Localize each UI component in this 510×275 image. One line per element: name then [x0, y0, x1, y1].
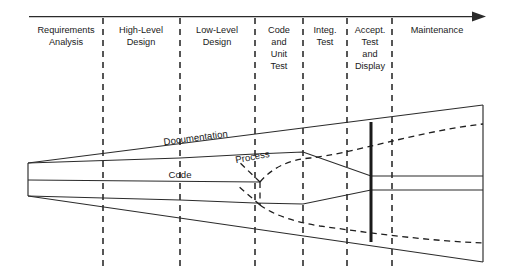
- phase-label-low-level-design-line-1: Low-Level: [196, 25, 238, 35]
- phase-dividers: [103, 18, 392, 266]
- phase-label-requirements-analysis-line-2: Analysis: [49, 37, 84, 47]
- diagram-canvas: Requirements Analysis High-Level Design …: [0, 0, 510, 275]
- phase-label-integration-test-line-1: Integ.: [314, 25, 337, 35]
- phase-label-acceptance-test-line-4: Display: [355, 61, 386, 71]
- phase-label-acceptance-test-line-3: and: [362, 49, 377, 59]
- phase-label-acceptance-test-line-2: Test: [362, 37, 379, 47]
- phase-label-low-level-design-line-2: Design: [203, 37, 232, 47]
- phase-labels: Requirements Analysis High-Level Design …: [37, 25, 463, 71]
- phase-label-code-unit-test-line-4: Test: [271, 61, 288, 71]
- dashed-uncertainty-bands: [237, 124, 483, 243]
- phase-label-code-unit-test-line-1: Code: [268, 25, 290, 35]
- cone-label-process: Process: [234, 148, 270, 165]
- cone-label-documentation: Documentation: [163, 128, 228, 147]
- time-axis-arrow: [29, 12, 486, 22]
- phase-label-code-unit-test-line-3: Unit: [271, 49, 288, 59]
- phase-label-integration-test-line-2: Test: [317, 37, 334, 47]
- phase-label-code-unit-test-line-2: and: [271, 37, 286, 47]
- phase-label-high-level-design-line-1: High-Level: [119, 25, 163, 35]
- cone-label-code: Code: [169, 169, 192, 180]
- phase-label-requirements-analysis-line-1: Requirements: [37, 25, 95, 35]
- cone-diagram-figure: Requirements Analysis High-Level Design …: [0, 0, 510, 275]
- cone-center-code-line: [28, 180, 260, 182]
- phase-label-high-level-design-line-2: Design: [127, 37, 156, 47]
- phase-label-acceptance-test-line-1: Accept.: [355, 25, 386, 35]
- phase-label-maintenance-line-1: Maintenance: [411, 25, 464, 35]
